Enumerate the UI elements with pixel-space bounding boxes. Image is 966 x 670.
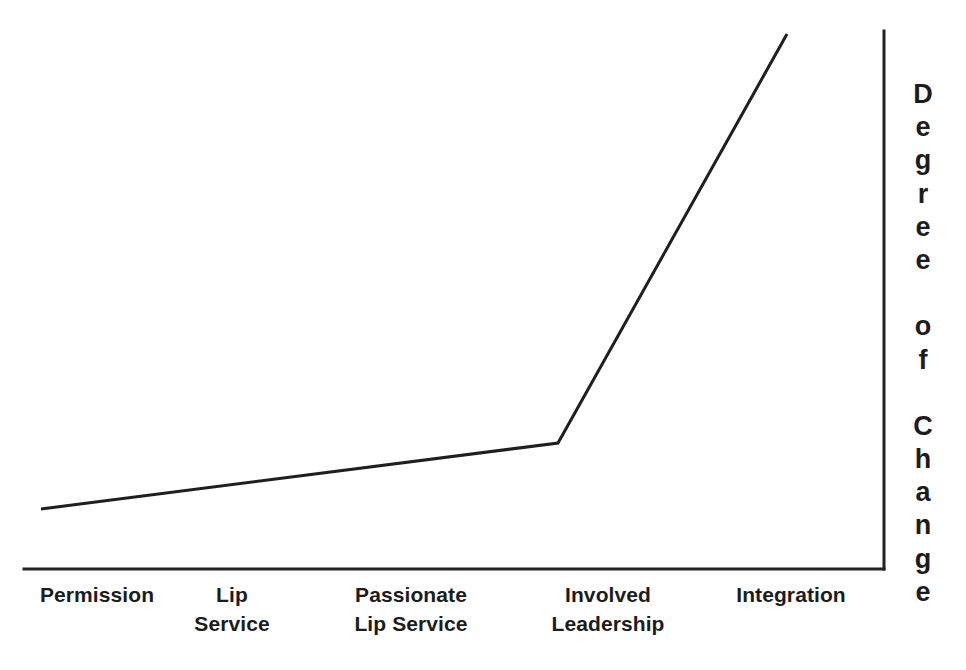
x-axis-label-integration: Integration [736,580,846,609]
y-axis-title-char-12: a [900,476,946,509]
y-axis-title-char-13: n [900,509,946,542]
y-axis-title-char-15: e [900,576,946,609]
y-axis-title-char-3: r [900,178,946,211]
y-axis-title-char-11: h [900,443,946,476]
x-axis-label-lip-service: Lip Service [194,580,269,638]
x-axis-label-passionate-lip-service: Passionate Lip Service [354,580,467,638]
y-axis-title-char-2: g [900,144,946,177]
y-axis-title-char-1: e [900,111,946,144]
y-axis-title-char-4: e [900,211,946,244]
y-axis-title: Degree of Change [900,78,946,609]
y-axis-title-char-8: f [900,344,946,377]
chart-plot-area [0,0,966,670]
x-axis-label-involved-leadership: Involved Leadership [551,580,664,638]
y-axis-title-char-7: o [900,310,946,343]
y-axis-title-char-10: C [900,410,946,443]
y-axis-title-char-5: e [900,244,946,277]
y-axis-title-char-0: D [900,78,946,111]
chart-figure: Permission Lip Service Passionate Lip Se… [0,0,966,670]
y-axis-title-char-14: g [900,543,946,576]
data-series-line [41,34,787,509]
x-axis-label-permission: Permission [40,580,154,609]
